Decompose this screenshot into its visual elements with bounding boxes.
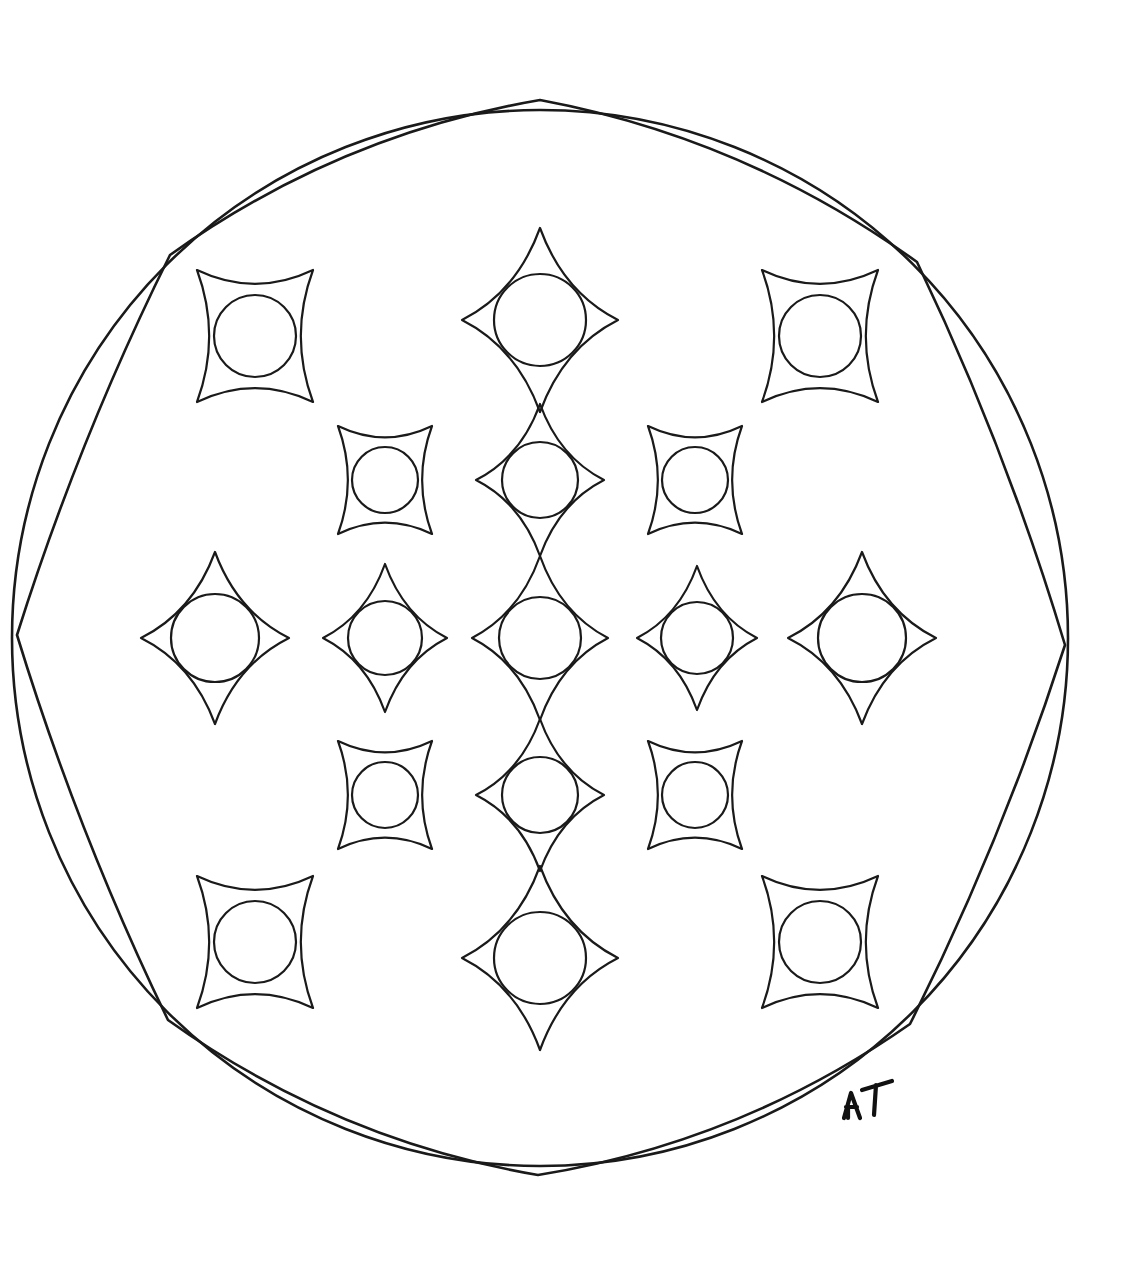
- four-point-star-outline: [323, 564, 447, 712]
- inscribed-circle: [214, 295, 296, 377]
- mandala-drawing: [0, 0, 1144, 1264]
- signature-AT: [844, 1081, 892, 1118]
- motif-r3-c5: [788, 552, 936, 724]
- four-point-star-outline: [476, 719, 604, 871]
- inscribed-circle: [502, 442, 578, 518]
- motif-r2-c3: [648, 426, 742, 534]
- four-point-star-outline: [141, 552, 289, 724]
- four-point-star-outline: [788, 552, 936, 724]
- motif-r3-c2: [323, 564, 447, 712]
- motif-r3-c1: [141, 552, 289, 724]
- motif-layer: [141, 228, 936, 1050]
- inscribed-circle: [352, 447, 418, 513]
- inscribed-circle: [779, 901, 861, 983]
- four-point-star-outline: [462, 866, 618, 1050]
- inscribed-circle: [348, 601, 422, 675]
- inscribed-circle: [171, 594, 259, 682]
- row-2: [338, 404, 742, 556]
- inscribed-circle: [214, 901, 296, 983]
- artboard: AT Octagonal Mandala Coloring Page: [0, 0, 1144, 1264]
- inscribed-circle: [352, 762, 418, 828]
- four-point-star-outline: [476, 404, 604, 556]
- motif-r4-c1: [338, 741, 432, 849]
- inscribed-circle: [499, 597, 581, 679]
- row-1: [197, 228, 878, 412]
- inscribed-circle: [661, 602, 733, 674]
- motif-r4-c3: [648, 741, 742, 849]
- four-point-star-outline: [637, 566, 757, 710]
- motif-r1-c1: [197, 270, 313, 402]
- motif-r5-c1: [197, 876, 313, 1008]
- inscribed-circle: [502, 757, 578, 833]
- inner-octagon-frame: [17, 100, 1065, 1175]
- motif-r1-c2: [462, 228, 618, 412]
- row-4: [338, 719, 742, 871]
- inscribed-circle: [494, 274, 586, 366]
- four-point-star-outline: [462, 228, 618, 412]
- inscribed-circle: [779, 295, 861, 377]
- row-5: [197, 866, 878, 1050]
- motif-r5-c2: [462, 866, 618, 1050]
- inscribed-circle: [662, 447, 728, 513]
- row-3: [141, 552, 936, 724]
- inscribed-circle: [662, 762, 728, 828]
- inscribed-circle: [818, 594, 906, 682]
- motif-r2-c2: [476, 404, 604, 556]
- motif-r2-c1: [338, 426, 432, 534]
- inscribed-circle: [494, 912, 586, 1004]
- motif-r4-c2: [476, 719, 604, 871]
- motif-r3-c4: [637, 566, 757, 710]
- motif-r3-c3: [472, 556, 608, 720]
- motif-r1-c3: [762, 270, 878, 402]
- four-point-star-outline: [472, 556, 608, 720]
- motif-r5-c3: [762, 876, 878, 1008]
